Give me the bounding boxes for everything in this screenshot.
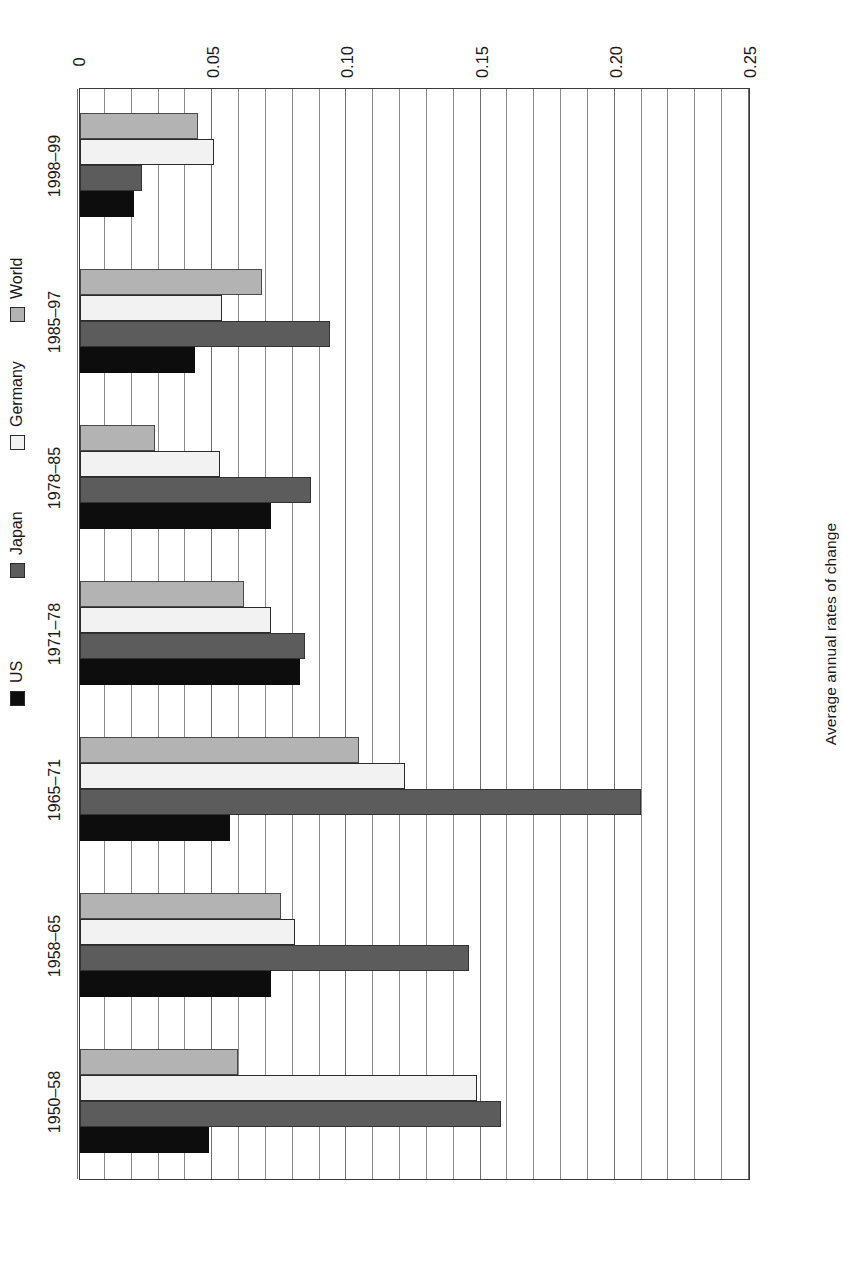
bar[interactable] [80,165,142,191]
gridline-major [77,89,78,1179]
bar[interactable] [80,737,359,763]
legend-swatch-world [10,307,25,322]
bar[interactable] [80,945,469,971]
bar-group [80,399,749,555]
category-label: 1971–78 [44,572,66,696]
bar[interactable] [80,113,198,139]
category-label: 1958–65 [44,884,66,1008]
bar[interactable] [80,477,311,503]
bar[interactable] [80,763,405,789]
legend-label: US [9,661,25,683]
category-label: 1985–97 [44,260,66,384]
category-label: 1950–58 [44,1040,66,1164]
legend-label: World [9,258,25,300]
bar[interactable] [80,815,230,841]
bar-group [80,867,749,1023]
bar[interactable] [80,1075,477,1101]
bar[interactable] [80,581,244,607]
bar-group [80,555,749,711]
category-label: 1978–85 [44,416,66,540]
bar[interactable] [80,1101,501,1127]
legend-swatch-us [10,691,25,706]
category-axis-labels: 1950–581958–651965–711971–781978–851985–… [35,88,75,1180]
legend-item[interactable]: World [4,152,30,322]
bar[interactable] [80,191,134,217]
bar-groups [80,89,749,1179]
value-axis-ticks: 00.050.100.150.200.25 [780,0,832,1268]
bar[interactable] [80,607,271,633]
bar[interactable] [80,919,295,945]
bar[interactable] [80,503,271,529]
bar[interactable] [80,139,214,165]
bar[interactable] [80,321,330,347]
bar-group [80,1023,749,1179]
bar-group [80,711,749,867]
bar[interactable] [80,451,220,477]
chart-legend: USJapanGermanyWorld [2,88,32,1180]
bar-group [80,87,749,243]
plot-area [79,88,750,1180]
bar-group [80,243,749,399]
legend-label: Germany [9,361,25,427]
category-label: 1965–71 [44,728,66,852]
bar[interactable] [80,347,195,373]
bar[interactable] [80,1049,238,1075]
bar[interactable] [80,789,641,815]
legend-swatch-germany [10,435,25,450]
bar[interactable] [80,659,300,685]
bar[interactable] [80,295,222,321]
bar[interactable] [80,269,263,295]
legend-label: Japan [9,511,25,555]
bar[interactable] [80,425,155,451]
bar[interactable] [80,893,281,919]
category-label: 1998–99 [44,104,66,228]
bar[interactable] [80,1127,209,1153]
legend-swatch-japan [10,563,25,578]
bar[interactable] [80,633,305,659]
bar[interactable] [80,971,271,997]
